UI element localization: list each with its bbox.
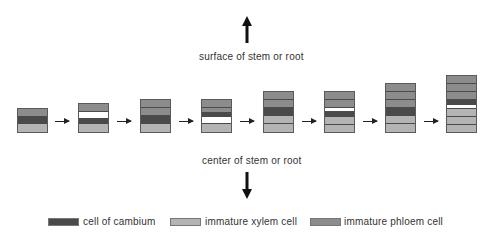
phloem-cell <box>325 100 354 108</box>
xylem-cell <box>325 125 354 132</box>
legend-cambium-label: cell of cambium <box>83 216 155 227</box>
stage-4-stack <box>201 99 232 133</box>
xylem-cell <box>447 117 476 125</box>
stage-7-stack <box>385 83 416 133</box>
phloem-cell <box>264 92 293 100</box>
phloem-cell <box>447 84 476 92</box>
stage-2-stack <box>78 103 109 133</box>
xylem-cell <box>264 124 293 132</box>
phloem-cell <box>325 92 354 100</box>
phloem-cell <box>202 100 231 108</box>
arrow-right-icon <box>363 121 377 122</box>
xylem-cell <box>264 116 293 124</box>
phloem-cell <box>386 100 415 108</box>
phloem-cell <box>447 92 476 100</box>
xylem-cell <box>141 124 170 132</box>
xylem-cell <box>202 124 231 132</box>
cambium-cell <box>141 116 170 124</box>
stage-3-stack <box>140 99 171 133</box>
xylem-cell <box>386 124 415 132</box>
dividing-cell <box>202 117 231 124</box>
arrow-right-icon <box>424 121 438 122</box>
xylem-cell <box>447 109 476 117</box>
arrow-right-icon <box>55 121 69 122</box>
cambium-cell <box>386 108 415 116</box>
phloem-cell <box>264 100 293 108</box>
cambium-cell <box>264 108 293 116</box>
arrow-right-icon <box>302 121 316 122</box>
stage-6-stack <box>324 91 355 133</box>
phloem-cell <box>386 84 415 92</box>
stage-8-stack <box>446 75 477 133</box>
xylem-cell <box>325 117 354 125</box>
arrow-right-icon <box>240 121 254 122</box>
xylem-cell <box>447 125 476 132</box>
phloem-cell <box>386 92 415 100</box>
phloem-cell <box>141 108 170 116</box>
cambium-cell <box>18 117 47 125</box>
legend-xylem-swatch <box>170 218 201 226</box>
phloem-cell <box>447 76 476 84</box>
arrow-up-icon <box>241 16 253 44</box>
phloem-cell <box>141 100 170 108</box>
surface-label: surface of stem or root <box>199 51 304 62</box>
xylem-cell <box>79 124 108 132</box>
phloem-cell <box>18 109 47 117</box>
dividing-cell <box>79 112 108 120</box>
legend-xylem-label: immature xylem cell <box>205 216 297 227</box>
arrow-right-icon <box>179 121 193 122</box>
phloem-cell <box>79 104 108 112</box>
arrow-right-icon <box>117 121 131 122</box>
stage-1-stack <box>17 108 48 133</box>
xylem-cell <box>18 124 47 132</box>
stage-5-stack <box>263 91 294 133</box>
legend-phloem-label: immature phloem cell <box>344 216 443 227</box>
legend-phloem-swatch <box>310 218 341 226</box>
arrow-down-icon <box>241 172 253 200</box>
legend-cambium-swatch <box>48 218 79 226</box>
xylem-cell <box>386 116 415 124</box>
center-label: center of stem or root <box>202 155 301 166</box>
